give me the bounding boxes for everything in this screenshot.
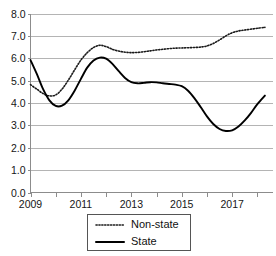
x-axis-tick-label: 2009: [19, 198, 43, 210]
y-axis-tick-label: 5.0: [11, 75, 26, 87]
legend-label-non-state: Non-state: [131, 219, 179, 230]
legend-swatch-solid: [95, 237, 125, 247]
data-series: [31, 27, 265, 131]
y-axis-tick-label: 8.0: [11, 8, 26, 20]
y-axis-tick-labels: 8.07.06.05.04.03.02.01.00.0: [11, 8, 26, 199]
y-axis-tick-label: 6.0: [11, 52, 26, 64]
plot-area: 8.07.06.05.04.03.02.01.00.0 200920112013…: [0, 0, 276, 210]
chart-legend: Non-state State: [87, 214, 191, 251]
x-axis-tick-labels: 20092011201320152017: [19, 198, 244, 210]
x-axis-tick-label: 2013: [120, 198, 144, 210]
line-chart: 8.07.06.05.04.03.02.01.00.0 200920112013…: [0, 0, 276, 256]
y-axis-tick-label: 2.0: [11, 142, 26, 154]
x-axis-tick-marks: [32, 193, 258, 197]
x-axis-tick-label: 2017: [220, 198, 244, 210]
legend-swatch-dotted: [95, 220, 125, 230]
x-axis-tick-label: 2011: [70, 198, 93, 210]
legend-item-state: State: [88, 233, 190, 250]
y-axis-tick-label: 7.0: [11, 30, 26, 42]
y-axis-tick-label: 1.0: [11, 164, 26, 176]
x-axis-tick-label: 2015: [170, 198, 194, 210]
legend-label-state: State: [131, 236, 157, 247]
series-line-non-state: [31, 27, 265, 96]
y-axis-tick-label: 4.0: [11, 97, 26, 109]
y-axis-tick-label: 3.0: [11, 119, 26, 131]
legend-item-non-state: Non-state: [88, 216, 190, 233]
series-line-state: [31, 57, 265, 131]
